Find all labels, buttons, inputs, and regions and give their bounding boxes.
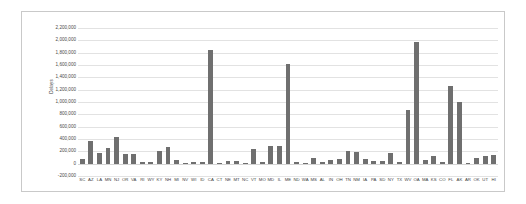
bar <box>277 146 282 163</box>
bar <box>286 64 291 164</box>
x-axis-tick-label: PA <box>371 178 376 182</box>
x-axis-tick-label: OR <box>122 178 128 182</box>
x-axis-tick-label: CO <box>439 178 445 182</box>
y-axis-tick-labels: 2,200,0002,000,0001,800,0001,600,0001,40… <box>34 28 76 176</box>
bar <box>363 159 368 164</box>
bar <box>491 155 496 164</box>
bar <box>457 102 462 164</box>
x-axis-tick-label: SD <box>379 178 385 182</box>
bar <box>200 162 205 163</box>
y-axis-tick-label: 400,000 <box>34 137 76 142</box>
bar <box>148 162 153 163</box>
x-axis-tick-labels: SCAZLAMNNJORVARIWYKYNHMINVWIIDCACTNEMTNC… <box>78 178 498 190</box>
bar <box>140 162 145 164</box>
bar <box>97 153 102 164</box>
bar <box>106 148 111 163</box>
x-axis-tick-label: MI <box>174 178 179 182</box>
x-axis-tick-label: OH <box>336 178 342 182</box>
x-axis-tick-label: MN <box>105 178 112 182</box>
x-axis-tick-label: ME <box>285 178 291 182</box>
bar <box>166 147 171 164</box>
y-axis-tick-label: 200,000 <box>34 149 76 154</box>
x-axis-tick-label: IL <box>278 178 282 182</box>
x-axis-tick-label: WY <box>147 178 154 182</box>
x-axis-tick-label: CA <box>208 178 214 182</box>
bar <box>440 162 445 163</box>
bar <box>131 154 136 163</box>
y-axis-tick-label: 2,200,000 <box>34 26 76 31</box>
bar <box>234 161 239 163</box>
bar <box>328 160 333 163</box>
x-axis-tick-label: IN <box>329 178 333 182</box>
bar <box>474 158 479 164</box>
bar <box>354 152 359 164</box>
bar <box>226 161 231 163</box>
x-axis-tick-label: HI <box>492 178 496 182</box>
bar <box>466 163 471 164</box>
x-axis-tick-label: MA <box>422 178 428 182</box>
bar <box>208 50 213 163</box>
bar <box>88 141 93 163</box>
bar <box>174 160 179 164</box>
bar <box>483 156 488 164</box>
x-axis-tick-label: SC <box>79 178 85 182</box>
bar <box>388 153 393 164</box>
y-axis-tick-label: 1,000,000 <box>34 100 76 105</box>
x-axis-tick-label: LA <box>97 178 102 182</box>
bar <box>294 162 299 164</box>
x-axis-tick-label: TN <box>345 178 351 182</box>
bar <box>114 137 119 164</box>
bar <box>311 158 316 163</box>
x-axis-tick-label: OA <box>413 178 419 182</box>
x-axis-tick-label: VT <box>251 178 257 182</box>
bar <box>371 161 376 164</box>
bar <box>320 162 325 163</box>
bar <box>183 163 188 164</box>
x-axis-tick-label: ID <box>200 178 204 182</box>
x-axis-tick-label: MT <box>233 178 239 182</box>
x-axis-tick-label: NH <box>165 178 171 182</box>
x-axis-tick-label: AR <box>465 178 471 182</box>
x-axis-tick-label: MS <box>310 178 316 182</box>
x-axis-tick-label: IA <box>363 178 367 182</box>
bar <box>303 163 308 164</box>
bar <box>346 151 351 163</box>
x-axis-tick-label: MO <box>259 178 266 182</box>
bar <box>448 86 453 164</box>
x-axis-tick-label: ND <box>293 178 299 182</box>
bar <box>414 42 419 163</box>
bar <box>431 156 436 164</box>
x-axis-tick-label: WI <box>191 178 196 182</box>
y-axis-tick-label: 2,000,000 <box>34 38 76 43</box>
chart-frame: Delays 2,200,0002,000,0001,800,0001,600,… <box>21 11 505 192</box>
bar <box>423 160 428 164</box>
x-axis-tick-label: NM <box>353 178 360 182</box>
bar <box>217 163 222 164</box>
y-axis-tick-label: 1,800,000 <box>34 50 76 55</box>
y-axis-tick-label: 600,000 <box>34 124 76 129</box>
x-axis-tick-label: WV <box>405 178 412 182</box>
x-axis-tick-label: UT <box>482 178 488 182</box>
x-axis-tick-label: MD <box>268 178 275 182</box>
y-axis-tick-label: 1,200,000 <box>34 87 76 92</box>
bar <box>80 159 85 164</box>
x-axis-tick-label: CT <box>217 178 223 182</box>
x-axis-tick-label: KY <box>157 178 163 182</box>
bar <box>251 149 256 163</box>
bar <box>123 154 128 164</box>
x-axis-tick-label: NY <box>388 178 394 182</box>
y-axis-tick-label: 1,400,000 <box>34 75 76 80</box>
x-axis-tick-label: NJ <box>114 178 119 182</box>
bar-series <box>78 28 498 176</box>
x-axis-tick-label: AL <box>320 178 325 182</box>
bar <box>260 162 265 163</box>
bar <box>406 110 411 164</box>
bar <box>243 163 248 164</box>
x-axis-tick-label: FL <box>448 178 453 182</box>
y-axis-tick-label: -200,000 <box>34 174 76 179</box>
x-axis-tick-label: NV <box>182 178 188 182</box>
bar <box>337 159 342 164</box>
bar <box>380 161 385 163</box>
bar <box>191 162 196 164</box>
x-axis-tick-label: AZ <box>88 178 94 182</box>
